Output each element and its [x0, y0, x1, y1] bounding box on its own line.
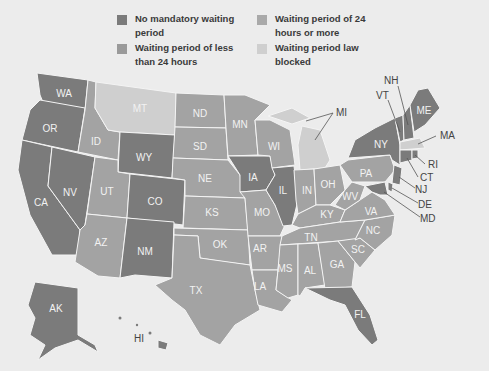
- state-label-mi: MI: [336, 107, 347, 118]
- state-label-ri: RI: [428, 159, 438, 170]
- state-label-pa: PA: [360, 168, 373, 179]
- state-hi: [158, 340, 168, 350]
- state-label-nm: NM: [137, 246, 153, 257]
- state-label-nd: ND: [193, 108, 207, 119]
- state-label-de: DE: [418, 199, 432, 210]
- state-label-sc: SC: [351, 244, 365, 255]
- state-label-vt: VT: [376, 90, 389, 101]
- state-de: [388, 182, 393, 192]
- state-label-co: CO: [148, 196, 163, 207]
- state-label-ma: MA: [440, 130, 455, 141]
- hi-island: [136, 324, 138, 326]
- state-ri: [412, 150, 418, 159]
- leader-line-mi: [315, 113, 333, 140]
- state-ak: [28, 282, 98, 360]
- state-label-ut: UT: [100, 186, 113, 197]
- state-label-ak: AK: [49, 303, 63, 314]
- state-label-oh: OH: [321, 179, 336, 190]
- state-label-la: LA: [254, 281, 267, 292]
- state-label-id: ID: [91, 136, 101, 147]
- us-map: WA OR CA NV ID MT WY UT CO AZ NM ND SD N…: [0, 0, 489, 371]
- state-label-fl: FL: [354, 309, 366, 320]
- state-md: [365, 182, 388, 195]
- state-label-sd: SD: [193, 141, 207, 152]
- state-label-nh: NH: [384, 75, 398, 86]
- state-label-hi: HI: [134, 333, 144, 344]
- state-label-va: VA: [365, 206, 378, 217]
- state-label-ct: CT: [420, 172, 433, 183]
- state-label-ar: AR: [253, 243, 267, 254]
- state-label-al: AL: [304, 265, 317, 276]
- state-label-ks: KS: [205, 207, 219, 218]
- state-label-wi: WI: [268, 141, 280, 152]
- state-label-ny: NY: [374, 139, 388, 150]
- state-label-nv: NV: [63, 187, 77, 198]
- state-label-nc: NC: [366, 225, 380, 236]
- state-label-il: IL: [279, 185, 288, 196]
- state-label-ca: CA: [34, 197, 48, 208]
- state-label-in: IN: [302, 185, 312, 196]
- state-label-tn: TN: [304, 232, 317, 243]
- hi-island: [119, 317, 122, 320]
- state-label-mt: MT: [133, 103, 147, 114]
- state-label-ga: GA: [330, 259, 345, 270]
- state-label-ky: KY: [320, 209, 334, 220]
- state-label-ne: NE: [198, 173, 212, 184]
- state-label-mo: MO: [254, 207, 270, 218]
- state-label-az: AZ: [95, 237, 108, 248]
- leader-line-mi: [306, 113, 333, 121]
- state-label-md: MD: [420, 213, 436, 224]
- state-fl: [305, 287, 378, 345]
- hi-island: [149, 332, 152, 335]
- state-label-ok: OK: [213, 239, 228, 250]
- state-label-mn: MN: [232, 119, 248, 130]
- state-label-wv: WV: [342, 191, 358, 202]
- state-ct: [400, 150, 412, 163]
- state-label-ms: MS: [278, 263, 293, 274]
- state-label-or: OR: [43, 123, 58, 134]
- state-mi: [298, 126, 330, 170]
- state-label-me: ME: [417, 105, 432, 116]
- leader-line-ri: [415, 155, 425, 164]
- state-label-ia: IA: [248, 172, 258, 183]
- state-nj: [392, 165, 402, 185]
- leader-line-ct: [407, 158, 418, 177]
- leader-line-nj: [399, 177, 415, 188]
- state-label-nj: NJ: [415, 184, 427, 195]
- state-label-tx: TX: [190, 285, 203, 296]
- state-label-wa: WA: [56, 88, 72, 99]
- state-label-wy: WY: [136, 152, 152, 163]
